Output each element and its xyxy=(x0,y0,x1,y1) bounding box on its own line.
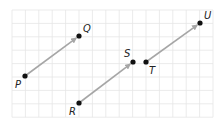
label-s: S xyxy=(124,49,130,59)
vector-tu xyxy=(146,25,197,62)
vector-rs xyxy=(79,64,130,103)
point-t xyxy=(143,59,148,64)
vector-pq xyxy=(25,38,76,76)
point-u xyxy=(197,20,202,25)
point-r xyxy=(76,100,81,105)
vector-diagram xyxy=(0,0,222,126)
label-r: R xyxy=(69,107,76,117)
point-q xyxy=(76,33,81,38)
point-p xyxy=(22,73,27,78)
points xyxy=(22,20,202,105)
label-q: Q xyxy=(83,24,91,34)
label-p: P xyxy=(15,80,21,90)
point-s xyxy=(130,59,135,64)
label-t: T xyxy=(149,66,155,76)
label-u: U xyxy=(204,11,211,21)
